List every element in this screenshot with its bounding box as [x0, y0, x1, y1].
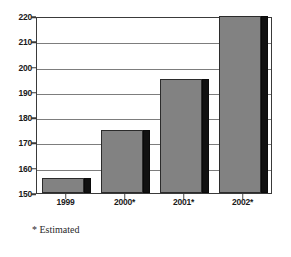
bar-1999 — [42, 178, 84, 193]
x-axis-tick-mark — [124, 194, 126, 199]
x-axis-tick-mark — [242, 194, 244, 199]
bar-group — [219, 16, 268, 193]
x-axis-tick-mark — [65, 194, 67, 199]
bar-shadow-side — [261, 16, 268, 193]
bar-2002 — [219, 16, 261, 193]
plot-area — [36, 17, 272, 194]
bar-chart-figure: 150160170180190200210220 19992000*2001*2… — [0, 0, 291, 257]
bar-2000 — [101, 130, 143, 193]
bar-shadow-side — [202, 79, 209, 193]
bar-group — [42, 178, 91, 193]
x-axis-label-group: 19992000*2001*2002* — [36, 197, 272, 213]
bar-shadow-side — [84, 178, 91, 193]
bar-shadow-side — [143, 130, 150, 193]
footnote-estimated: * Estimated — [32, 224, 80, 235]
x-axis-tick-mark — [183, 194, 185, 199]
bar-2001 — [160, 79, 202, 193]
y-axis-tick-group — [0, 17, 36, 194]
bar-group — [101, 130, 150, 193]
bar-group — [160, 79, 209, 193]
